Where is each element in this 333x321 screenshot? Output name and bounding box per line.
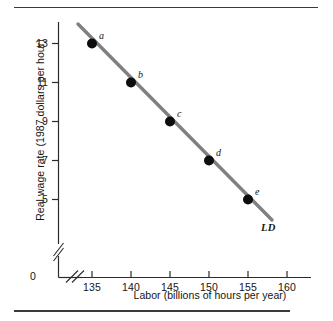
point-label-d: d [216,147,221,158]
labor-demand-curve [78,24,272,220]
data-point-a [87,39,97,49]
data-point-d [204,156,214,166]
point-label-a: a [99,30,104,41]
point-label-b: b [138,69,143,80]
origin-label: 0 [30,270,36,282]
data-point-c [165,117,175,127]
data-point-e [243,195,253,205]
point-label-c: c [177,108,181,119]
y-axis-title: Real wage rate (1987 dollars per hour) [34,30,46,230]
figure-demand-for-labor: 13 11 9 7 5 0 135 140 145 150 155 160 Re… [0,0,333,321]
data-point-b [126,78,136,88]
point-label-e: e [255,186,259,197]
plot-area [0,0,333,321]
x-axis-title: Labor (billions of hours per year) [110,289,310,301]
x-tick-label-135: 135 [74,281,110,293]
curve-label-ld: LD [261,222,276,233]
